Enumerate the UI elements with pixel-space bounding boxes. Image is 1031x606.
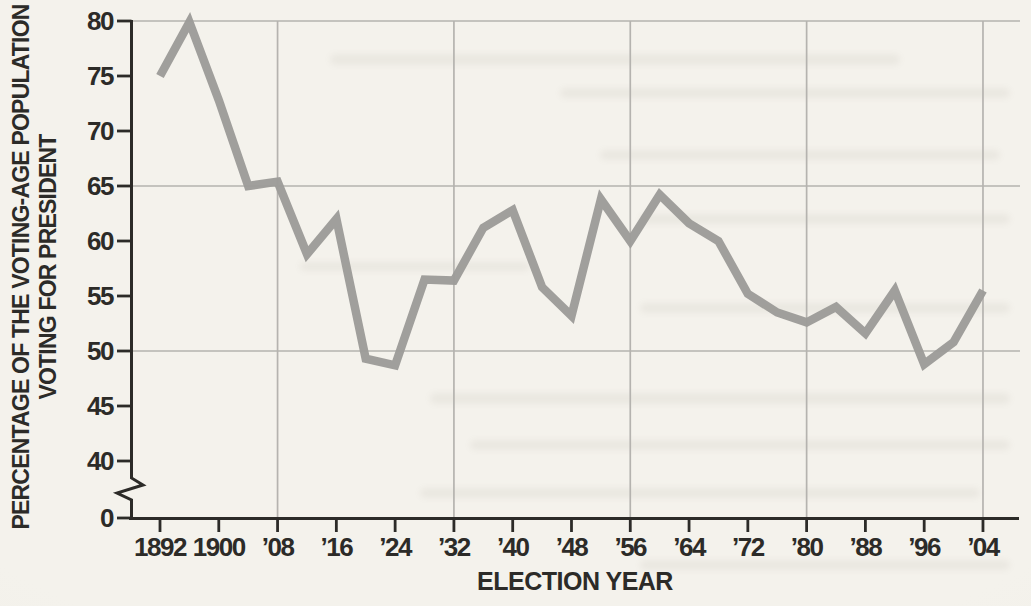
- y-tick-label-50: 50: [87, 336, 114, 366]
- turnout-data-line: [160, 22, 983, 365]
- y-tick-label-55: 55: [87, 281, 114, 311]
- x-tick-label-1996: ’96: [908, 532, 941, 562]
- x-tick-label-1892: 1892: [134, 532, 187, 562]
- x-tick-label-1980: ’80: [791, 532, 824, 562]
- y-tick-label-70: 70: [87, 116, 114, 146]
- turnout-line-chart: 807570656055504540018921900’08’16’24’32’…: [0, 0, 1031, 606]
- x-tick-label-1956: ’56: [614, 532, 647, 562]
- x-tick-label-1908: ’08: [262, 532, 295, 562]
- y-tick-label-80: 80: [87, 6, 114, 36]
- y-tick-label-75: 75: [87, 61, 114, 91]
- x-tick-label-1988: ’88: [850, 532, 883, 562]
- x-tick-label-1972: ’72: [732, 532, 765, 562]
- x-tick-label-1932: ’32: [438, 532, 471, 562]
- x-axis-title: ELECTION YEAR: [425, 567, 725, 596]
- x-tick-label-1948: ’48: [556, 532, 589, 562]
- x-tick-label-1900: 1900: [193, 532, 246, 562]
- x-tick-label-2004: ’04: [967, 532, 1001, 562]
- y-tick-label-60: 60: [87, 226, 114, 256]
- x-tick-label-1924: ’24: [379, 532, 413, 562]
- y-tick-label-40: 40: [87, 446, 114, 476]
- x-tick-label-1940: ’40: [497, 532, 530, 562]
- y-axis-line: [117, 20, 143, 519]
- y-tick-label-0: 0: [100, 503, 114, 533]
- x-tick-label-1964: ’64: [673, 532, 707, 562]
- y-tick-label-65: 65: [87, 171, 114, 201]
- scanned-book-page: PERCENTAGE OF THE VOTING-AGE POPULATION …: [0, 0, 1031, 606]
- y-tick-label-45: 45: [87, 391, 114, 421]
- x-tick-label-1916: ’16: [321, 532, 354, 562]
